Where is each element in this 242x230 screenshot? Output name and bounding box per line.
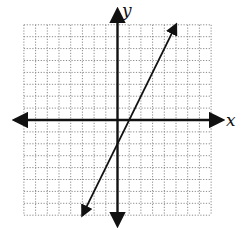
y-axis-label: y — [121, 0, 132, 20]
coordinate-plane: x y — [0, 0, 242, 230]
x-axis-label: x — [226, 110, 236, 130]
axes — [15, 10, 222, 225]
